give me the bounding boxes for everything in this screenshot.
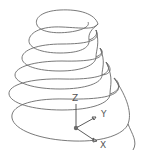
helix-loop-3 [22, 30, 98, 71]
helix-spiral [9, 10, 135, 150]
helix-loop-1 [36, 10, 98, 33]
helix-drawing: Z Y X [0, 0, 152, 161]
helix-tail [128, 124, 135, 150]
y-axis-label: Y [100, 109, 107, 119]
y-axis [76, 118, 94, 128]
helix-loop-4 [15, 48, 103, 89]
z-axis-label: Z [72, 93, 78, 103]
helix-loop-5 [9, 62, 111, 110]
x-axis-label: X [100, 140, 106, 150]
origin-marker [74, 126, 78, 130]
x-axis [76, 128, 94, 140]
